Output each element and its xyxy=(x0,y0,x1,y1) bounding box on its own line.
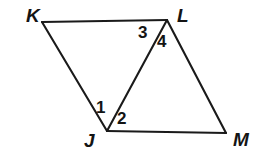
segments-group xyxy=(42,20,226,133)
vertex-label-j: J xyxy=(84,131,95,150)
vertex-label-k: K xyxy=(26,6,40,25)
vertex-label-m: M xyxy=(233,130,249,149)
vertex-label-l: L xyxy=(177,6,189,25)
segment-jm xyxy=(107,131,226,133)
geometry-figure: KLJM 1234 xyxy=(0,0,270,156)
angle-1-label: 1 xyxy=(96,99,105,116)
segment-kl xyxy=(42,20,167,22)
angle-2-label: 2 xyxy=(117,110,126,127)
figure-canvas xyxy=(0,0,270,156)
angle-3-label: 3 xyxy=(138,24,147,41)
angle-4-label: 4 xyxy=(157,33,166,50)
segment-lm xyxy=(167,20,226,133)
